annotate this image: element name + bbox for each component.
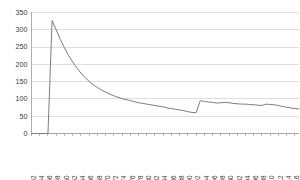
- ytick-label: 0: [24, 129, 28, 138]
- xtick-label: 2016: [293, 175, 300, 180]
- chart-container: 050100150200250300350 195219541956195819…: [0, 0, 300, 180]
- xtick-label: 2006: [252, 175, 259, 180]
- ytick-label: 300: [16, 25, 28, 34]
- xtick-label: 1976: [129, 175, 136, 180]
- xtick-label: 1956: [46, 175, 53, 180]
- xtick-label: 1958: [54, 175, 61, 180]
- xtick-label: 1960: [63, 175, 70, 180]
- ytick-label: 150: [16, 77, 28, 86]
- xtick-label: 1982: [153, 175, 160, 180]
- ytick-label: 200: [16, 60, 28, 69]
- xtick-label: 1966: [87, 175, 94, 180]
- xtick-label: 1984: [161, 175, 168, 180]
- xtick-labels-group: 1952195419561958196019621964196619681970…: [30, 175, 300, 180]
- xtick-label: 2012: [277, 175, 284, 180]
- ytick-label: 100: [16, 94, 28, 103]
- xtick-label: 2008: [260, 175, 267, 180]
- xtick-label: 1968: [96, 175, 103, 180]
- xtick-label: 1978: [137, 175, 144, 180]
- ytick-labels-group: 050100150200250300350: [16, 8, 28, 138]
- xtick-label: 2004: [244, 175, 251, 180]
- gridlines-group: [32, 13, 300, 134]
- xtick-label: 1964: [79, 175, 86, 180]
- xtick-label: 1990: [186, 175, 193, 180]
- xtick-label: 1996: [211, 175, 218, 180]
- xtick-label: 1994: [203, 175, 210, 180]
- xtick-label: 1962: [71, 175, 78, 180]
- xtick-label: 2002: [236, 175, 243, 180]
- xtick-label: 1972: [112, 175, 119, 180]
- xtick-label: 1998: [219, 175, 226, 180]
- ytick-label: 50: [20, 112, 28, 121]
- data-series-line: [32, 20, 300, 133]
- xtick-label: 1980: [145, 175, 152, 180]
- axes-group: [32, 12, 300, 134]
- xtick-label: 2000: [227, 175, 234, 180]
- xtick-label: 1952: [30, 175, 37, 180]
- xtick-label: 2010: [268, 175, 275, 180]
- ytick-label: 350: [16, 8, 28, 17]
- ytick-label: 250: [16, 42, 28, 51]
- xtick-label: 1986: [170, 175, 177, 180]
- xtick-label: 1992: [194, 175, 201, 180]
- xtick-label: 1974: [120, 175, 127, 180]
- xtick-label: 1970: [104, 175, 111, 180]
- xtick-label: 1988: [178, 175, 185, 180]
- line-chart: 050100150200250300350 195219541956195819…: [0, 0, 300, 180]
- xtick-label: 2014: [285, 175, 292, 180]
- xtick-label: 1954: [38, 175, 45, 180]
